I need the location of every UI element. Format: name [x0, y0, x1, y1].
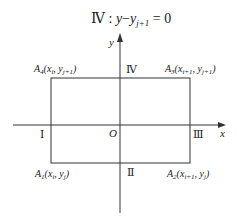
- coordinate-diagram: Ⅳ : y−yj+1 = 0 x y O Ⅰ Ⅱ Ⅲ Ⅳ A4(xi, yj+1…: [0, 0, 237, 224]
- vertex-label-A2: A2(xi+1, yj): [166, 168, 210, 181]
- origin-label: O: [109, 127, 117, 139]
- y-axis-arrow-icon: [117, 33, 123, 42]
- x-axis-label: x: [219, 127, 225, 139]
- vertex-label-A1: A1(xi, yj): [34, 168, 70, 181]
- region-label-IV: Ⅳ: [126, 63, 138, 75]
- region-label-II: Ⅱ: [127, 166, 134, 178]
- y-axis-label: y: [108, 36, 114, 48]
- region-label-I: Ⅰ: [40, 128, 44, 140]
- vertex-label-A3: A3(xi+1, yj+1): [164, 63, 216, 76]
- vertex-label-A4: A4(xi, yj+1): [33, 63, 77, 76]
- region-label-III: Ⅲ: [193, 128, 204, 140]
- title-equation: Ⅳ : y−yj+1 = 0: [91, 11, 171, 28]
